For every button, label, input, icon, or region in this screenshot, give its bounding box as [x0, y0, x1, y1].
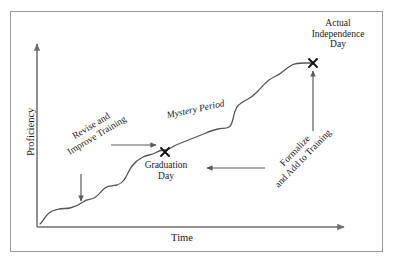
graduation-day-marker	[161, 148, 169, 156]
annotation-actual-independence-day: Actual Independence Day	[300, 18, 376, 50]
annotation-independence-line3: Day	[300, 39, 376, 50]
annotation-independence-line1: Actual	[300, 18, 376, 29]
annotation-independence-line2: Independence	[300, 29, 376, 40]
x-axis-label: Time	[152, 232, 212, 244]
annotation-graduation-line1: Graduation	[134, 160, 198, 171]
annotation-graduation-day: Graduation Day	[134, 160, 198, 181]
figure-canvas: Proficiency Time Revise and Improve Trai…	[0, 0, 396, 262]
annotation-graduation-line2: Day	[134, 171, 198, 182]
y-axis-label: Proficiency	[25, 100, 37, 164]
